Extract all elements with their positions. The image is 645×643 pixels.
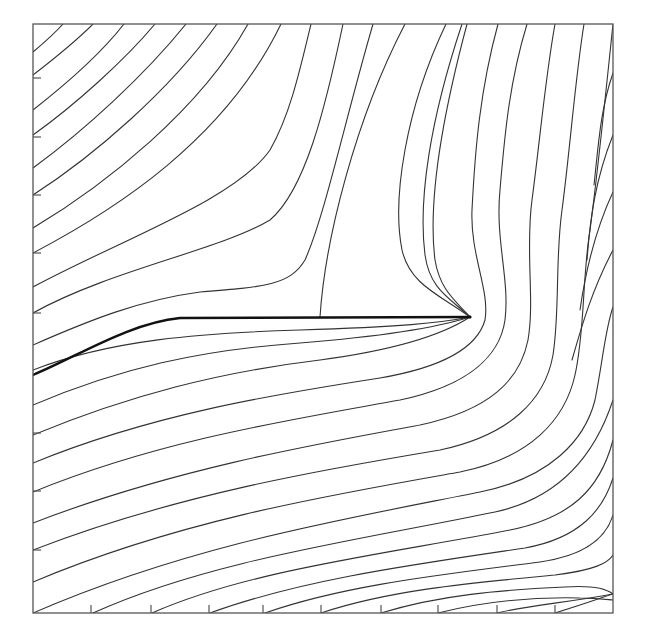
streamline bbox=[33, 24, 217, 195]
streamline bbox=[33, 317, 470, 435]
streamline bbox=[33, 24, 311, 287]
streamline bbox=[33, 24, 527, 492]
streamline bbox=[152, 440, 613, 613]
streamline bbox=[33, 24, 584, 550]
streamline bbox=[423, 24, 470, 317]
streamline bbox=[33, 24, 186, 168]
streamline bbox=[580, 192, 613, 310]
streamline bbox=[438, 598, 613, 613]
axis-ticks bbox=[33, 78, 555, 613]
streamline bbox=[33, 24, 63, 52]
streamline bbox=[320, 24, 405, 317]
streamline bbox=[33, 307, 613, 613]
streamline bbox=[433, 24, 470, 317]
streamline bbox=[594, 73, 613, 185]
streamline bbox=[33, 317, 470, 405]
streamline bbox=[555, 594, 613, 613]
streamline bbox=[321, 555, 613, 613]
streamline bbox=[399, 24, 470, 317]
streamline bbox=[33, 24, 343, 313]
streamline bbox=[93, 400, 613, 613]
stagnation-point bbox=[468, 315, 471, 318]
streamline bbox=[572, 250, 613, 360]
streamline bbox=[33, 24, 498, 463]
streamline bbox=[587, 135, 613, 260]
streamline bbox=[210, 478, 613, 613]
streamline-plot bbox=[0, 0, 645, 643]
streamline bbox=[33, 24, 248, 228]
